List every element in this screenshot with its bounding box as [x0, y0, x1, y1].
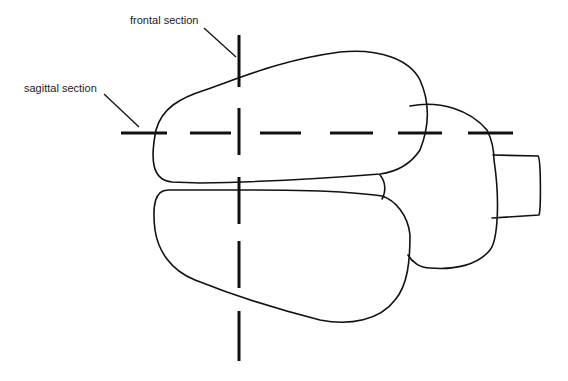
- frontal-leader-line: [204, 28, 236, 57]
- brainstem-outline: [492, 155, 540, 218]
- frontal-section-label: frontal section: [130, 14, 198, 26]
- sagittal-leader-line: [104, 94, 139, 127]
- cerebellum-outline: [408, 104, 497, 268]
- lower-hemisphere-outline: [154, 190, 410, 322]
- upper-hemisphere-outline: [153, 51, 428, 183]
- brain-diagram: [0, 0, 568, 381]
- sagittal-section-label: sagittal section: [24, 82, 97, 94]
